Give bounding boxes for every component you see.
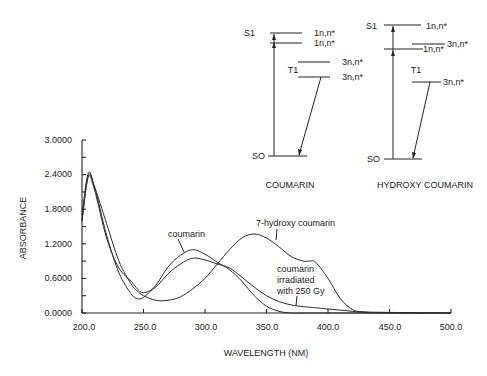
y-tick-label: 0.6000 <box>44 273 72 283</box>
diagram-caption: HYDROXY COUMARIN <box>377 180 473 190</box>
annotation-leader <box>178 239 184 252</box>
y-axis-title: ABSORBANCE <box>18 197 28 260</box>
annotation-irradiated-line3: with 250 Gy <box>276 286 325 296</box>
x-tick-label: 250.0 <box>134 322 157 332</box>
curve-coumarin-irradiated <box>82 176 451 313</box>
energy-diagram-coumarin: S1 1n,n* 1n,n* 3n,n* 3n,n* T1 SO COUMARI… <box>244 28 364 190</box>
y-tick-label: 1.8000 <box>44 204 72 214</box>
annotation-leader <box>296 296 297 306</box>
annotation-irradiated-line1: coumarin <box>277 264 314 274</box>
state-label: 1n,n* <box>426 21 448 31</box>
y-tick-label: 2.4000 <box>44 169 72 179</box>
x-tick-label: 300.0 <box>195 322 218 332</box>
x-tick-label: 200.0 <box>73 322 96 332</box>
annotation-coumarin: coumarin <box>168 229 205 239</box>
state-label: 1n,n* <box>314 28 336 38</box>
y-tick-label: 3.0000 <box>44 135 72 145</box>
state-label: 1n,n* <box>423 44 445 54</box>
x-axis-title: WAVELENGTH (NM) <box>224 348 309 358</box>
state-label: 3n,n* <box>342 57 364 67</box>
annotation-leader <box>276 229 277 240</box>
annotation-7-hydroxy-coumarin: 7-hydroxy coumarin <box>256 218 335 228</box>
level-label-s0: SO <box>252 151 265 161</box>
x-tick-label: 450.0 <box>379 322 402 332</box>
level-label-s1: S1 <box>244 28 255 38</box>
level-label-t1: T1 <box>288 65 299 75</box>
y-tick-label: 0.0000 <box>44 308 72 318</box>
level-label-s1: S1 <box>366 21 377 31</box>
state-label: 3n,n* <box>342 72 364 82</box>
diagram-caption: COUMARIN <box>266 180 315 190</box>
level-label-s0: SO <box>367 154 380 164</box>
y-tick-label: 1.2000 <box>44 239 72 249</box>
y-tick-marks <box>82 140 86 313</box>
x-tick-label: 500.0 <box>440 322 463 332</box>
energy-diagram-hydroxy-coumarin: S1 1n,n* 3n,n* 1n,n* T1 3n,n* SO HYDROXY… <box>366 21 473 190</box>
state-label: 1n,n* <box>314 38 336 48</box>
annotation-irradiated-line2: irradiated <box>277 275 315 285</box>
x-tick-label: 350.0 <box>256 322 279 332</box>
level-label-t1: T1 <box>411 65 422 75</box>
figure-canvas: 0.0000 0.6000 1.2000 1.8000 2.4000 3.000… <box>0 0 487 376</box>
curve-coumarin <box>82 172 451 313</box>
curve-7-hydroxy-coumarin <box>82 174 451 313</box>
x-tick-label: 400.0 <box>317 322 340 332</box>
state-label: 3n,n* <box>447 39 469 49</box>
state-label: 3n,n* <box>443 77 465 87</box>
